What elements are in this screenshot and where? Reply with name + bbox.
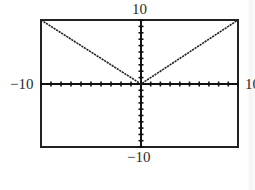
ymax-label: 10 bbox=[132, 2, 147, 17]
xmin-label: −10 bbox=[10, 77, 33, 92]
ymin-label: −10 bbox=[127, 150, 150, 165]
xmax-label: 10 bbox=[245, 77, 255, 92]
